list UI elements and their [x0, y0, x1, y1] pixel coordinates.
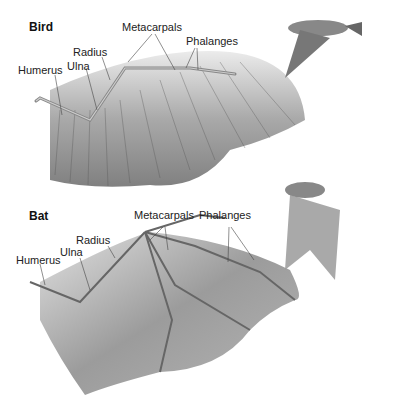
- panel-title-bird: Bird: [29, 20, 53, 34]
- label-bat-radius: Radius: [76, 234, 110, 246]
- label-bat-humerus: Humerus: [16, 254, 61, 266]
- label-bird-humerus: Humerus: [18, 64, 63, 76]
- panel-title-bat: Bat: [29, 209, 48, 223]
- label-bird-phalanges: Phalanges: [186, 35, 238, 47]
- label-bat-phalanges: Phalanges: [199, 209, 251, 221]
- bat-wing: [30, 215, 299, 395]
- label-bird-metacarpals: Metacarpals: [122, 21, 182, 33]
- wing-homology-illustration: [0, 0, 393, 408]
- label-bird-radius: Radius: [73, 46, 107, 58]
- label-bird-ulna: Ulna: [67, 60, 90, 72]
- flying-bird-icon: [285, 20, 362, 78]
- label-bat-ulna: Ulna: [60, 246, 83, 258]
- label-bat-metacarpals: Metacarpals: [134, 209, 194, 221]
- flying-bat-icon: [285, 182, 340, 280]
